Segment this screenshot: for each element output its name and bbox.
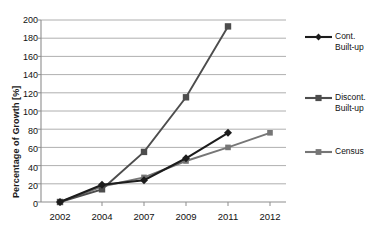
plot-area	[0, 0, 389, 242]
growth-line-chart: Percentage of Growth [%] 200 180 160 140…	[0, 0, 389, 242]
x-axis-ticks	[60, 202, 270, 206]
series-cont-built-up-line	[60, 133, 228, 202]
legend-item-cont-built-up: Cont. Built-up	[335, 31, 364, 52]
legend-item-census: Census	[335, 146, 364, 157]
legend-label-cont-built-up-line2: Built-up	[335, 42, 364, 53]
legend-label-cont-built-up-line1: Cont.	[335, 31, 364, 42]
legend-label-discont-built-up-line2: Built-up	[335, 103, 366, 114]
gridlines	[41, 20, 286, 184]
legend-swatch-cont-built-up	[305, 34, 332, 41]
y-axis-ticks	[37, 20, 41, 202]
legend-label-census-line1: Census	[335, 146, 364, 157]
legend-item-discont-built-up: Discont. Built-up	[335, 92, 366, 113]
legend-label-discont-built-up-line1: Discont.	[335, 92, 366, 103]
legend-swatch-discont-built-up	[305, 95, 332, 101]
legend-swatch-census	[305, 149, 332, 155]
